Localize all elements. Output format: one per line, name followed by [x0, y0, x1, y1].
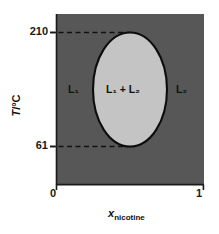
y-axis-title-unit: /°C [10, 94, 22, 109]
region-label-l2: L₂ [176, 84, 187, 95]
x-axis-title: xnicotine [108, 208, 145, 222]
region-label-l1-plus-l2: L₁ + L₂ [106, 84, 140, 95]
phase-diagram-figure: 210 61 0 1 T/°C xnicotine L₁ L₁ + L₂ L₂ [0, 0, 219, 234]
x-tick-label-0: 0 [50, 188, 56, 199]
y-axis-title: T/°C [11, 76, 22, 136]
y-tick-label-210: 210 [14, 26, 48, 37]
y-axis-title-symbol: T [10, 110, 22, 117]
x-axis-title-subscript: nicotine [114, 213, 145, 222]
x-tick-label-1: 1 [196, 188, 202, 199]
region-label-l1: L₁ [68, 84, 79, 95]
y-tick-label-61: 61 [14, 140, 48, 151]
